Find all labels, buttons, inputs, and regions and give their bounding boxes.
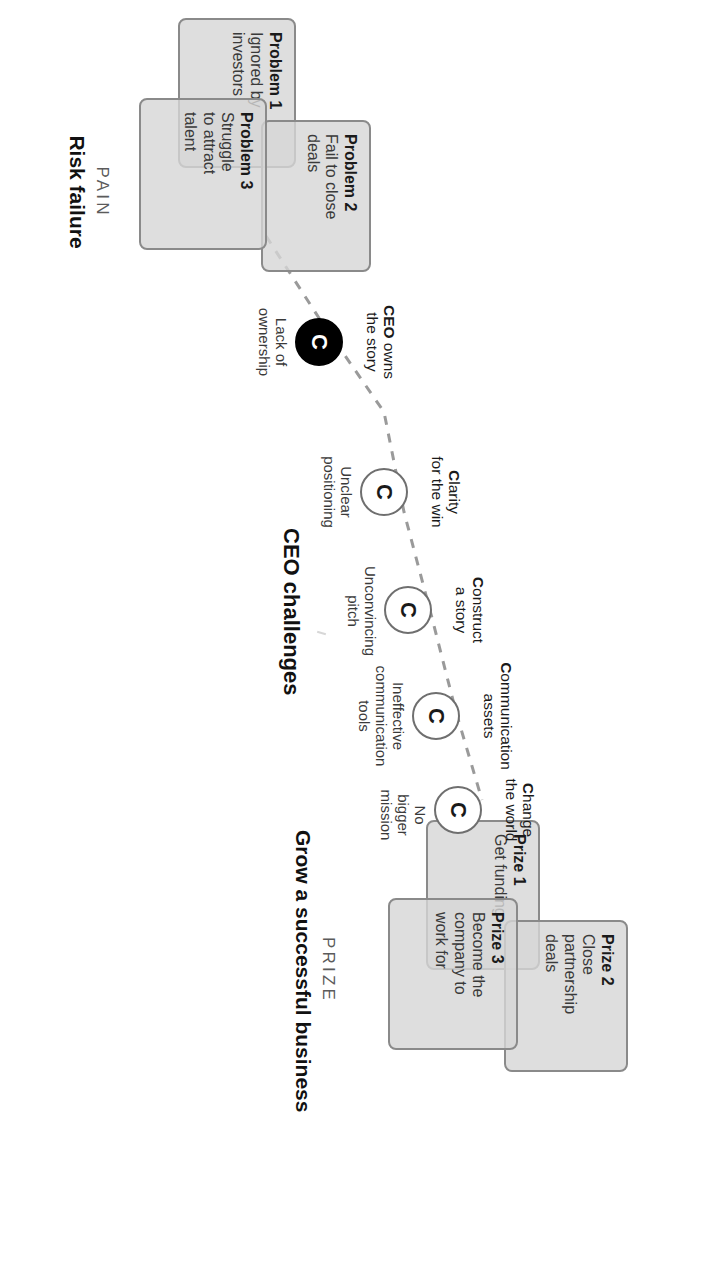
node-construct-a-story[interactable]: C xyxy=(384,586,432,634)
node-1-sublabel: Lack of ownership xyxy=(255,282,289,402)
node-ceo-owns-the-story[interactable]: C xyxy=(295,318,343,366)
node-2-label-line-2: for the win xyxy=(429,456,446,528)
prize-headline: Grow a successful business xyxy=(291,830,315,1110)
node-5-label-rest: hange xyxy=(520,794,537,837)
prize-card-2-line-3: deals xyxy=(542,934,560,1058)
node-4-sub-line-2: communication xyxy=(373,666,390,767)
node-5-sublabel: No bigger mission xyxy=(378,760,428,870)
center-caption: CEO challenges xyxy=(278,528,304,696)
pain-card-3-title: Problem 3 xyxy=(237,112,255,236)
node-5-sub-line-1: No xyxy=(412,805,429,824)
node-5-label: Change the world xyxy=(502,730,537,890)
node-4-label-line-2: assets xyxy=(481,694,498,739)
node-1-label-lead: CEO xyxy=(381,305,398,339)
node-glyph-1: C xyxy=(307,334,332,350)
pain-headline: Risk failure xyxy=(65,72,89,312)
pain-card-2-line-2: deals xyxy=(303,134,321,258)
node-4-label-lead: C xyxy=(498,662,515,673)
prize-caption: PRIZE Grow a successful business xyxy=(291,830,338,1110)
node-3-sub-line-1: Unconvincing xyxy=(362,566,379,656)
node-change-the-world[interactable]: C xyxy=(434,786,482,834)
prize-card-3-line-2: company to xyxy=(450,912,468,1036)
prize-card-3-line-3: work for xyxy=(432,912,450,1036)
scan-speck xyxy=(317,631,326,635)
prize-card-2-line-1: Close xyxy=(579,934,597,1058)
node-5-label-line-2: the world xyxy=(503,779,520,842)
diagram-canvas: Problem 1 Ignored by investors Problem 2… xyxy=(0,0,704,1274)
node-2-label-lead: C xyxy=(446,470,463,481)
node-1-label: CEO owns the story xyxy=(363,262,398,422)
node-1-label-rest: owns xyxy=(381,339,398,380)
node-glyph-2: C xyxy=(372,484,397,500)
prize-kicker: PRIZE xyxy=(318,830,338,1110)
node-4-sub-line-3: tools xyxy=(356,700,373,732)
node-glyph-5: C xyxy=(446,802,471,818)
node-5-label-lead: C xyxy=(520,783,537,794)
node-3-sub-line-2: pitch xyxy=(345,595,362,627)
node-3-label-line-2: a story xyxy=(453,587,470,634)
pain-card-2-line-1: Fail to close xyxy=(322,134,340,258)
prize-card-3-title: Prize 3 xyxy=(488,912,506,1036)
pain-card-3-line-2: to attract xyxy=(199,112,217,236)
node-5-sub-line-2: bigger xyxy=(395,794,412,836)
prize-card-3-line-1: Become the xyxy=(469,912,487,1036)
prize-card-2-line-2: partnership xyxy=(560,934,578,1058)
pain-card-2-title: Problem 2 xyxy=(341,134,359,258)
pain-card-problem-3: Problem 3 Struggle to attract talent xyxy=(139,98,267,250)
node-2-label-rest: larity xyxy=(446,481,463,514)
node-1-sub-line-2: ownership xyxy=(256,308,273,376)
node-4-sub-line-1: Ineffective xyxy=(390,682,407,750)
pain-card-3-line-1: Struggle xyxy=(218,112,236,236)
node-2-sub-line-1: Unclear xyxy=(338,466,355,518)
node-clarity-for-the-win[interactable]: C xyxy=(360,468,408,516)
pain-card-3-line-3: talent xyxy=(181,112,199,236)
pain-card-problem-2: Problem 2 Fail to close deals xyxy=(261,120,371,272)
node-1-label-line-2: the story xyxy=(364,312,381,371)
node-1-sub-line-1: Lack of xyxy=(273,318,290,366)
node-5-sub-line-3: mission xyxy=(378,790,395,841)
node-2-sub-line-2: positioning xyxy=(321,456,338,528)
pain-kicker: PAIN xyxy=(92,72,112,312)
prize-card-2: Prize 2 Close partnership deals xyxy=(504,920,628,1072)
pain-caption: PAIN Risk failure xyxy=(65,72,112,312)
node-3-label-lead: C xyxy=(470,577,487,588)
prize-card-2-title: Prize 2 xyxy=(598,934,616,1058)
node-glyph-4: C xyxy=(424,708,449,724)
node-glyph-3: C xyxy=(396,602,421,618)
prize-card-3: Prize 3 Become the company to work for xyxy=(388,898,518,1050)
node-communication-assets[interactable]: C xyxy=(412,692,460,740)
node-2-sublabel: Unclear positioning xyxy=(320,432,354,552)
